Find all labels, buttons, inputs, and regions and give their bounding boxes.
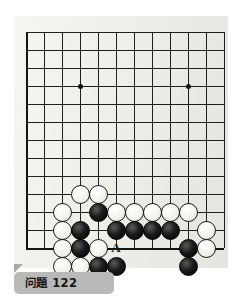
grid-line-horizontal-7 <box>26 158 224 159</box>
white-stone[interactable] <box>125 203 144 222</box>
hoshi-star-point-1 <box>186 84 191 89</box>
black-stone[interactable] <box>125 221 144 240</box>
grid-line-horizontal-0 <box>26 32 224 33</box>
white-stone[interactable] <box>107 203 126 222</box>
grid-line-horizontal-2 <box>26 68 224 69</box>
hoshi-star-point-0 <box>78 84 83 89</box>
grid-line-horizontal-5 <box>26 122 224 123</box>
grid-line-horizontal-4 <box>26 104 224 105</box>
grid-line-horizontal-8 <box>26 176 224 177</box>
white-stone[interactable] <box>179 203 198 222</box>
black-stone[interactable] <box>161 221 180 240</box>
go-board[interactable]: A <box>0 0 242 300</box>
white-stone[interactable] <box>53 203 72 222</box>
grid-line-vertical-11 <box>224 32 225 248</box>
grid-line-horizontal-6 <box>26 140 224 141</box>
black-stone[interactable] <box>89 203 108 222</box>
black-stone[interactable] <box>179 239 198 258</box>
white-stone[interactable] <box>89 185 108 204</box>
black-stone[interactable] <box>179 257 198 276</box>
white-stone[interactable] <box>53 221 72 240</box>
white-stone[interactable] <box>71 185 90 204</box>
black-stone[interactable] <box>143 221 162 240</box>
white-stone[interactable] <box>89 239 108 258</box>
grid-line-horizontal-3 <box>26 86 224 87</box>
white-stone[interactable] <box>53 239 72 258</box>
white-stone[interactable] <box>161 203 180 222</box>
page-root: A 问題 122 <box>0 0 242 300</box>
white-stone[interactable] <box>143 203 162 222</box>
grid-line-horizontal-1 <box>26 50 224 51</box>
black-stone[interactable] <box>107 221 126 240</box>
problem-caption: 问題 122 <box>14 272 114 294</box>
white-stone[interactable] <box>197 221 216 240</box>
grid-line-horizontal-9 <box>26 194 224 195</box>
white-stone[interactable] <box>197 239 216 258</box>
black-stone[interactable] <box>71 221 90 240</box>
black-stone[interactable] <box>71 239 90 258</box>
point-marker-a[interactable]: A <box>106 238 126 258</box>
